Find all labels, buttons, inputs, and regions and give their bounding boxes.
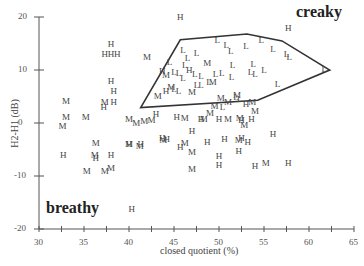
data-point-l: L (171, 67, 177, 76)
data-point-h: H (128, 205, 135, 214)
data-point-m: M (251, 106, 259, 115)
data-point-h: H (216, 114, 223, 123)
y-tick-label: -20 (14, 223, 26, 233)
y-tick-label: -10 (14, 170, 26, 180)
data-point-l: L (243, 41, 249, 50)
data-point-h: H (114, 50, 121, 59)
data-point-h: H (236, 146, 243, 155)
data-point-h: H (216, 161, 223, 170)
data-point-l: L (284, 50, 290, 59)
data-point-l: L (275, 80, 281, 89)
data-point-l: L (237, 95, 243, 104)
data-point-h: H (110, 87, 117, 96)
data-point-m: M (262, 159, 270, 168)
data-point-h: H (248, 114, 255, 123)
data-point-l: L (270, 44, 276, 53)
x-axis-label: closed quotient (%) (160, 245, 238, 256)
x-tick-label: 60 (304, 237, 313, 247)
breathy-annotation: breathy (46, 199, 99, 217)
scatter-plot (0, 0, 364, 266)
data-point-m: M (62, 96, 70, 105)
data-point-h: H (177, 13, 184, 22)
data-point-m: M (92, 139, 100, 148)
data-point-l: L (206, 77, 212, 86)
data-point-m: M (181, 114, 189, 123)
data-point-m: M (101, 97, 109, 106)
data-point-m: M (143, 52, 151, 61)
data-point-l: L (192, 70, 198, 79)
data-point-m: M (136, 141, 144, 150)
data-point-m: M (82, 113, 90, 122)
x-tick-label: 55 (259, 237, 268, 247)
x-tick-label: 35 (79, 237, 88, 247)
data-point-h: H (108, 151, 115, 160)
data-point-l: L (229, 72, 235, 81)
x-tick-label: 65 (349, 237, 358, 247)
data-point-m: M (83, 166, 91, 175)
y-tick-label: 10 (18, 64, 27, 74)
data-point-l: L (220, 103, 226, 112)
creaky-annotation: creaky (296, 3, 342, 21)
data-point-l: L (214, 35, 220, 44)
data-point-m: M (125, 140, 133, 149)
data-point-l: L (182, 60, 188, 69)
data-point-m: M (91, 151, 99, 160)
data-point-h: H (60, 151, 67, 160)
data-point-l: L (219, 69, 225, 78)
data-point-l: L (230, 60, 236, 69)
x-tick-label: 30 (34, 237, 43, 247)
data-point-m: M (58, 121, 66, 130)
data-point-h: H (110, 97, 117, 106)
data-point-l: L (259, 35, 265, 44)
data-point-m: M (188, 148, 196, 157)
data-point-m: M (188, 164, 196, 173)
data-point-m: M (154, 91, 162, 100)
data-point-l: L (261, 66, 267, 75)
data-point-h: H (245, 137, 252, 146)
data-point-h: H (108, 76, 115, 85)
y-axis-label: H2-H1 (dB) (9, 99, 20, 148)
data-point-m: M (107, 164, 115, 173)
data-point-h: H (204, 138, 211, 147)
data-point-m: M (203, 58, 211, 67)
x-tick-label: 40 (124, 237, 133, 247)
data-point-m: M (162, 71, 170, 80)
data-point-h: H (108, 39, 115, 48)
data-point-m: M (224, 115, 232, 124)
data-point-m: M (240, 121, 248, 130)
data-point-l: L (180, 73, 186, 82)
data-point-l: L (198, 81, 204, 90)
data-point-m: M (147, 116, 155, 125)
data-point-l: L (213, 70, 219, 79)
data-point-l: L (252, 69, 258, 78)
data-point-h: H (252, 162, 259, 171)
data-point-l: L (228, 47, 234, 56)
data-point-h: H (189, 126, 196, 135)
data-point-h: H (270, 129, 277, 138)
data-point-h: H (285, 23, 292, 32)
y-tick-label: 20 (18, 11, 27, 21)
data-point-l: L (322, 64, 328, 73)
data-point-h: H (285, 158, 292, 167)
data-point-m: M (200, 115, 208, 124)
data-point-m: M (235, 136, 243, 145)
data-point-m: M (132, 119, 140, 128)
data-point-l: L (194, 48, 200, 57)
data-point-h: H (221, 134, 228, 143)
data-point-h: H (173, 112, 180, 121)
data-point-l: L (176, 87, 182, 96)
data-point-m: M (159, 136, 167, 145)
